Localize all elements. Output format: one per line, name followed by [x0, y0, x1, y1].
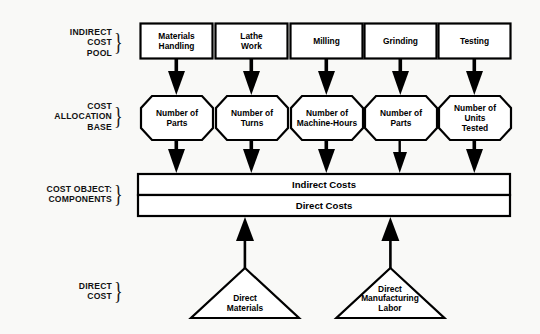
cost-pool-label: Materials Handling [140, 23, 213, 59]
cost-pool-label: Milling [290, 23, 363, 59]
down-arrow [318, 140, 335, 173]
direct-costs-label: Direct Costs [138, 195, 510, 216]
cost-pool-label: Grinding [364, 23, 437, 59]
down-arrow [243, 140, 260, 173]
allocation-base-label: Number of Turns [216, 96, 288, 140]
brace-indirect-cost-pool: } [114, 29, 123, 54]
brace-direct-cost: } [114, 278, 123, 303]
brace-cost-allocation-base: } [114, 103, 123, 128]
direct-cost-label: Direct Manufacturing Labor [340, 270, 440, 314]
down-arrow [392, 58, 409, 95]
allocation-base-label: Number of Parts [141, 96, 213, 140]
allocation-base-label: Number of Parts [365, 96, 437, 140]
stage-label-cost-object-components: COST OBJECT: COMPONENTS [18, 184, 112, 205]
down-arrow [168, 58, 185, 95]
cost-allocation-diagram: INDIRECT COST POOL } COST ALLOCATION BAS… [0, 0, 540, 334]
indirect-costs-label: Indirect Costs [138, 174, 510, 195]
direct-cost-label: Direct Materials [195, 270, 295, 314]
arrows-direct-to-costbar [236, 217, 399, 268]
down-arrow [466, 140, 483, 173]
down-arrow [168, 140, 185, 173]
arrows-base-to-costbar [168, 140, 483, 173]
cost-pool-label: Testing [438, 23, 511, 59]
allocation-base-label: Number of Units Tested [439, 96, 511, 140]
stage-label-direct-cost: DIRECT COST [36, 281, 112, 302]
stage-label-cost-allocation-base: COST ALLOCATION BASE [22, 101, 112, 132]
up-arrow [381, 217, 399, 268]
allocation-base-label: Number of Machine-Hours [290, 96, 364, 140]
down-arrow [393, 140, 407, 173]
down-arrow [243, 58, 260, 95]
down-arrow [318, 58, 335, 95]
brace-cost-object-components: } [114, 181, 123, 206]
down-arrow [466, 58, 483, 95]
cost-pool-label: Lathe Work [215, 23, 288, 59]
up-arrow [236, 217, 254, 268]
stage-label-indirect-cost-pool: INDIRECT COST POOL [30, 27, 112, 58]
arrows-pool-to-base [168, 58, 483, 95]
